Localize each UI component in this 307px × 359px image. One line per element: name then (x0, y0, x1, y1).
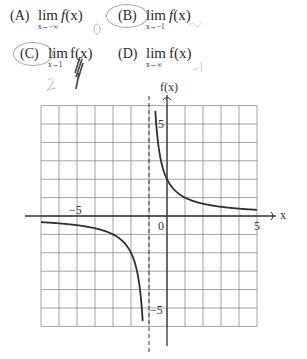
limit-expression: limx→∞ (146, 46, 166, 61)
tick-label-x-0: 0 (158, 219, 164, 234)
handwritten-mark-c (70, 55, 86, 91)
tick-label-x-neg5: −5 (69, 203, 82, 218)
limit-expression: limx→1 (48, 46, 68, 61)
x-axis-label: x (280, 208, 286, 223)
tick-label-x-5: 5 (254, 219, 260, 234)
tick-label-y-5: 5 (158, 117, 164, 132)
function-expression: f(x) (61, 7, 83, 23)
limit-approach: x→∞ (146, 61, 162, 69)
choice-a-letter: (A) (10, 9, 38, 23)
choice-b-letter: (B) (118, 9, 146, 23)
choice-c-letter: (C) (20, 47, 48, 61)
choice-d-letter: (D) (118, 47, 146, 61)
limit-approach: x→−1 (146, 23, 164, 31)
handwritten-zero-a (92, 22, 102, 36)
handwritten-two-c (44, 74, 60, 94)
limit-approach: x→1 (48, 61, 62, 69)
handwritten-mark-d (192, 60, 206, 74)
function-expression: f(x) (169, 45, 192, 61)
handwritten-dne-b (188, 20, 202, 28)
choice-d[interactable]: (D)limx→∞f(x) (118, 46, 192, 61)
limit-expression: limx→−∞ (38, 8, 58, 23)
tick-label-y-neg5: −5 (150, 303, 163, 318)
choice-b[interactable]: (B)limx→−1f(x) (118, 8, 191, 23)
limit-approach: x→−∞ (38, 23, 58, 31)
y-axis-label: f(x) (160, 80, 178, 95)
choice-a[interactable]: (A)limx→−∞f(x) (10, 8, 83, 23)
limit-expression: limx→−1 (146, 8, 166, 23)
